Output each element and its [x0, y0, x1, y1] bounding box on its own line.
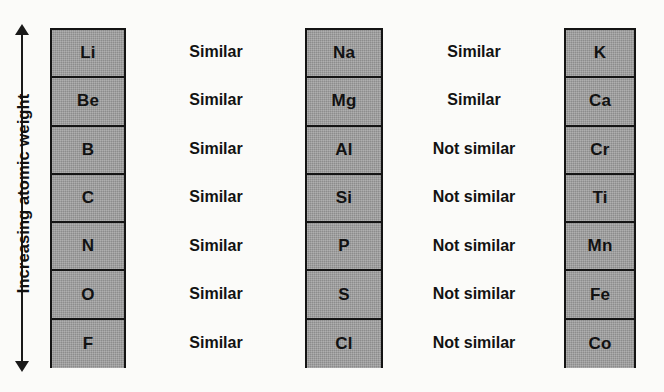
relation-label: Similar: [127, 140, 305, 158]
element-cell: B: [52, 127, 124, 175]
element-cell: Ca: [566, 78, 634, 126]
element-symbol: O: [81, 285, 94, 305]
element-cell: Fe: [566, 271, 634, 319]
element-column-right: K Ca Cr Ti Mn Fe Co: [564, 28, 636, 368]
relation-arrow-left: Similar: [127, 282, 305, 306]
element-symbol: Si: [336, 188, 352, 208]
element-symbol: K: [594, 43, 606, 63]
relation-arrow-left: Similar: [127, 40, 305, 64]
element-symbol: Cl: [335, 334, 352, 354]
relation-arrow-right: Not similar: [384, 282, 564, 306]
element-symbol: S: [338, 285, 350, 305]
element-symbol: B: [82, 140, 94, 160]
relation-arrow-left: Similar: [127, 234, 305, 258]
element-symbol: Be: [77, 91, 99, 111]
element-cell: Be: [52, 78, 124, 126]
relation-label: Not similar: [384, 237, 564, 255]
relation-label: Not similar: [384, 285, 564, 303]
relation-arrow-left: Similar: [127, 137, 305, 161]
relation-label: Similar: [384, 91, 564, 109]
element-cell: Li: [52, 30, 124, 78]
element-symbol: P: [338, 236, 350, 256]
element-cell: Ti: [566, 175, 634, 223]
element-symbol: Mg: [332, 91, 357, 111]
relation-label: Similar: [127, 91, 305, 109]
axis-label: Increasing atomic weight: [14, 46, 33, 342]
element-cell: Co: [566, 320, 634, 368]
atomic-weight-axis: Increasing atomic weight: [0, 24, 44, 372]
element-cell: Al: [307, 127, 381, 175]
element-cell: Si: [307, 175, 381, 223]
element-symbol: Mn: [588, 236, 613, 256]
relation-arrow-left: Similar: [127, 88, 305, 112]
relation-label: Not similar: [384, 334, 564, 352]
element-column-middle: Na Mg Al Si P S Cl: [305, 28, 383, 368]
relation-arrow-left: Similar: [127, 185, 305, 209]
element-cell: O: [52, 271, 124, 319]
relation-label: Similar: [127, 285, 305, 303]
element-symbol: Ti: [592, 188, 607, 208]
relation-label: Similar: [127, 43, 305, 61]
relation-label: Not similar: [384, 140, 564, 158]
element-cell: Mn: [566, 223, 634, 271]
element-symbol: Cr: [590, 140, 609, 160]
element-cell: Cl: [307, 320, 381, 368]
element-symbol: Co: [588, 334, 611, 354]
arrow-up-icon: [15, 24, 29, 35]
element-symbol: F: [83, 334, 94, 354]
relation-label: Similar: [384, 43, 564, 61]
relation-arrow-right: Similar: [384, 88, 564, 112]
periodic-similarity-diagram: Increasing atomic weight Li Be B C N O F…: [0, 0, 664, 392]
element-cell: C: [52, 175, 124, 223]
element-cell: Cr: [566, 127, 634, 175]
relation-arrow-left: Similar: [127, 331, 305, 355]
relation-arrow-right: Not similar: [384, 137, 564, 161]
element-cell: Mg: [307, 78, 381, 126]
element-symbol: Ca: [589, 91, 611, 111]
relation-label: Similar: [127, 188, 305, 206]
relation-label: Similar: [127, 237, 305, 255]
element-symbol: C: [82, 188, 94, 208]
element-symbol: Na: [333, 43, 355, 63]
relation-arrow-right: Similar: [384, 40, 564, 64]
element-cell: F: [52, 320, 124, 368]
element-cell: Na: [307, 30, 381, 78]
arrow-down-icon: [15, 361, 29, 372]
relation-arrow-right: Not similar: [384, 185, 564, 209]
relation-arrow-right: Not similar: [384, 234, 564, 258]
element-cell: S: [307, 271, 381, 319]
element-cell: P: [307, 223, 381, 271]
element-symbol: Fe: [590, 285, 610, 305]
relation-label: Not similar: [384, 188, 564, 206]
element-symbol: Al: [335, 140, 352, 160]
element-cell: N: [52, 223, 124, 271]
relation-label: Similar: [127, 334, 305, 352]
element-cell: K: [566, 30, 634, 78]
relation-arrow-right: Not similar: [384, 331, 564, 355]
element-symbol: Li: [80, 43, 96, 63]
element-symbol: N: [82, 236, 94, 256]
element-column-left: Li Be B C N O F: [50, 28, 126, 368]
